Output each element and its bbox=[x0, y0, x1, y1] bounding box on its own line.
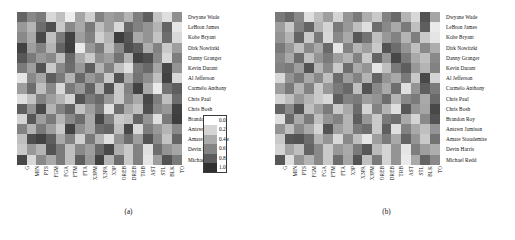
heatmap-cell bbox=[343, 104, 353, 114]
heatmap-row-label: Chris Paul bbox=[446, 94, 487, 104]
heatmap-cell bbox=[304, 124, 314, 134]
colorbar-swatch bbox=[204, 125, 217, 134]
heatmap-cell bbox=[353, 63, 363, 73]
heatmap-cell bbox=[85, 73, 95, 83]
colorbar-tick-label: 1.0 bbox=[219, 163, 226, 172]
heatmap-cell bbox=[36, 22, 46, 32]
heatmap-cell bbox=[411, 114, 421, 124]
heatmap-cell bbox=[430, 63, 440, 73]
heatmap-cell bbox=[85, 144, 95, 154]
colorbar-swatch bbox=[204, 144, 217, 153]
heatmap-cell bbox=[275, 73, 285, 83]
heatmap-cell bbox=[362, 63, 372, 73]
heatmap-cell bbox=[104, 43, 114, 53]
heatmap-cell bbox=[294, 104, 304, 114]
heatmap-column-label-slot: G bbox=[275, 166, 285, 192]
heatmap-cell bbox=[65, 155, 75, 165]
heatmap-cell bbox=[430, 53, 440, 63]
heatmap-cell bbox=[353, 53, 363, 63]
heatmap-cell bbox=[285, 12, 295, 22]
heatmap-cell bbox=[353, 43, 363, 53]
heatmap-cell bbox=[430, 12, 440, 22]
heatmap-cell bbox=[75, 83, 85, 93]
heatmap-cell bbox=[95, 63, 105, 73]
colorbar-tick-label: 0.2 bbox=[219, 125, 226, 134]
heatmap-row-label: Antawn Jamison bbox=[446, 124, 487, 134]
heatmap-cell bbox=[362, 144, 372, 154]
colorbar-tick-label: 0.0 bbox=[219, 116, 226, 125]
heatmap-cell bbox=[411, 53, 421, 63]
heatmap-cell bbox=[333, 94, 343, 104]
heatmap-cell bbox=[172, 43, 182, 53]
heatmap-cell bbox=[46, 104, 56, 114]
heatmap-cell bbox=[172, 83, 182, 93]
heatmap-cell bbox=[333, 43, 343, 53]
heatmap-cell bbox=[401, 53, 411, 63]
heatmap-cell bbox=[65, 114, 75, 124]
heatmap-cell bbox=[143, 43, 153, 53]
heatmap-cell bbox=[294, 114, 304, 124]
heatmap-row-label: Chris Bosh bbox=[188, 104, 229, 114]
heatmap-cell bbox=[333, 114, 343, 124]
heatmap-cell bbox=[372, 22, 382, 32]
heatmap-cell bbox=[382, 53, 392, 63]
heatmap-cell bbox=[65, 22, 75, 32]
heatmap-row-label: Kevin Durant bbox=[446, 63, 487, 73]
heatmap-cell bbox=[75, 63, 85, 73]
heatmap-cell bbox=[430, 32, 440, 42]
heatmap-cell bbox=[294, 134, 304, 144]
heatmap-column-label-slot: OREB bbox=[372, 166, 382, 192]
heatmap-cell bbox=[56, 22, 66, 32]
heatmap-b-column-labels: GMINPTSFGMFGAFTMFTAX3PX3PAX3PMOREBDREBTR… bbox=[275, 166, 440, 192]
heatmap-cell bbox=[27, 144, 37, 154]
heatmap-row-label: Michael Redd bbox=[446, 155, 487, 165]
heatmap-cell bbox=[314, 114, 324, 124]
heatmap-cell bbox=[104, 134, 114, 144]
heatmap-cell bbox=[17, 124, 27, 134]
heatmap-cell bbox=[333, 144, 343, 154]
heatmap-cell bbox=[382, 73, 392, 83]
heatmap-cell bbox=[343, 63, 353, 73]
heatmap-cell bbox=[65, 83, 75, 93]
panel-b: Dwyane WadeLeBron JamesKobe BryantDirk N… bbox=[258, 0, 515, 240]
heatmap-row-label: Kevin Durant bbox=[188, 63, 229, 73]
heatmap-cell bbox=[372, 83, 382, 93]
heatmap-cell bbox=[27, 104, 37, 114]
heatmap-column-label-slot: FGA bbox=[56, 166, 66, 192]
heatmap-cell bbox=[333, 53, 343, 63]
heatmap-cell bbox=[353, 104, 363, 114]
heatmap-cell bbox=[17, 114, 27, 124]
heatmap-b bbox=[275, 12, 440, 165]
heatmap-cell bbox=[162, 144, 172, 154]
heatmap-cell bbox=[323, 124, 333, 134]
heatmap-cell bbox=[46, 114, 56, 124]
heatmap-cell bbox=[285, 53, 295, 63]
heatmap-cell bbox=[323, 22, 333, 32]
heatmap-cell bbox=[275, 94, 285, 104]
heatmap-cell bbox=[46, 32, 56, 42]
heatmap-cell bbox=[401, 124, 411, 134]
colorbar-tick-label: 0.8 bbox=[219, 154, 226, 163]
heatmap-cell bbox=[114, 53, 124, 63]
heatmap-cell bbox=[275, 63, 285, 73]
heatmap-cell bbox=[17, 104, 27, 114]
heatmap-cell bbox=[65, 12, 75, 22]
heatmap-cell bbox=[162, 94, 172, 104]
heatmap-cell bbox=[353, 94, 363, 104]
colorbar-tick-label: 0.6 bbox=[219, 144, 226, 153]
heatmap-cell bbox=[162, 83, 172, 93]
heatmap-cell bbox=[56, 155, 66, 165]
heatmap-cell bbox=[143, 155, 153, 165]
heatmap-cell bbox=[382, 124, 392, 134]
heatmap-cell bbox=[114, 94, 124, 104]
heatmap-cell bbox=[124, 22, 134, 32]
heatmap-cell bbox=[17, 12, 27, 22]
heatmap-cell bbox=[114, 134, 124, 144]
heatmap-cell bbox=[133, 32, 143, 42]
heatmap-cell bbox=[420, 83, 430, 93]
heatmap-cell bbox=[333, 104, 343, 114]
heatmap-cell bbox=[420, 155, 430, 165]
heatmap-cell bbox=[353, 124, 363, 134]
heatmap-cell bbox=[285, 22, 295, 32]
heatmap-cell bbox=[36, 134, 46, 144]
